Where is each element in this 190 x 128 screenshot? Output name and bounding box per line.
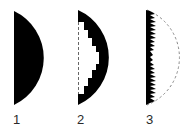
panel-label-1: 1 xyxy=(13,112,20,127)
stepped-lens-shape xyxy=(78,10,109,105)
plano-convex-lens-shape xyxy=(14,11,44,105)
fresnel-sawtooth-shape xyxy=(146,10,156,105)
panel-2 xyxy=(78,10,109,105)
lens-diagram: 1 2 3 xyxy=(0,0,190,128)
panel-label-2: 2 xyxy=(77,112,84,127)
panel-label-3: 3 xyxy=(146,112,153,127)
panel-3 xyxy=(146,10,179,105)
panel-1 xyxy=(14,11,44,105)
